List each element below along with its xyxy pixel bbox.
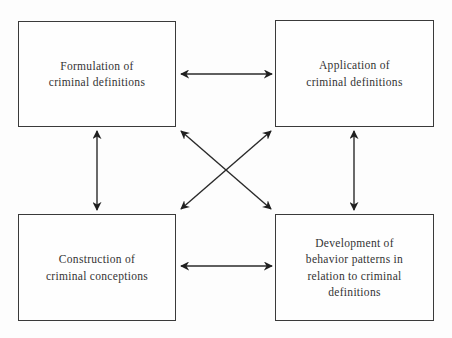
node-formulation: Formulation of criminal definitions <box>18 21 176 127</box>
node-formulation-label: Formulation of criminal definitions <box>49 58 145 91</box>
node-development-label: Development of behavior patterns in rela… <box>306 235 403 301</box>
node-application: Application of criminal definitions <box>275 20 434 127</box>
node-construction: Construction of criminal conceptions <box>18 214 176 321</box>
arrow-formulation-development <box>181 131 271 209</box>
diagram-canvas: Formulation of criminal definitions Appl… <box>0 0 452 338</box>
node-application-label: Application of criminal definitions <box>306 57 402 90</box>
arrow-application-construction <box>181 131 271 209</box>
node-development: Development of behavior patterns in rela… <box>275 214 434 321</box>
node-construction-label: Construction of criminal conceptions <box>46 251 148 284</box>
